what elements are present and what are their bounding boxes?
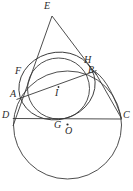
point-label-F: F: [15, 66, 21, 76]
point-label-C: C: [123, 110, 130, 120]
circle-incircle-I: [28, 58, 90, 119]
point-label-B: B: [88, 65, 94, 75]
figure-canvas: [0, 0, 133, 191]
point-label-I: I: [55, 88, 58, 98]
point-label-O: O: [65, 126, 72, 136]
point-label-G: G: [54, 120, 61, 130]
segment-B-to-C: [95, 72, 122, 119]
point-label-D: D: [2, 110, 9, 120]
point-label-E: E: [44, 1, 50, 11]
geometry-figure: E F H B A I D G O C: [0, 0, 133, 191]
segment-D-to-C: [13, 119, 122, 120]
point-label-A: A: [10, 89, 16, 99]
